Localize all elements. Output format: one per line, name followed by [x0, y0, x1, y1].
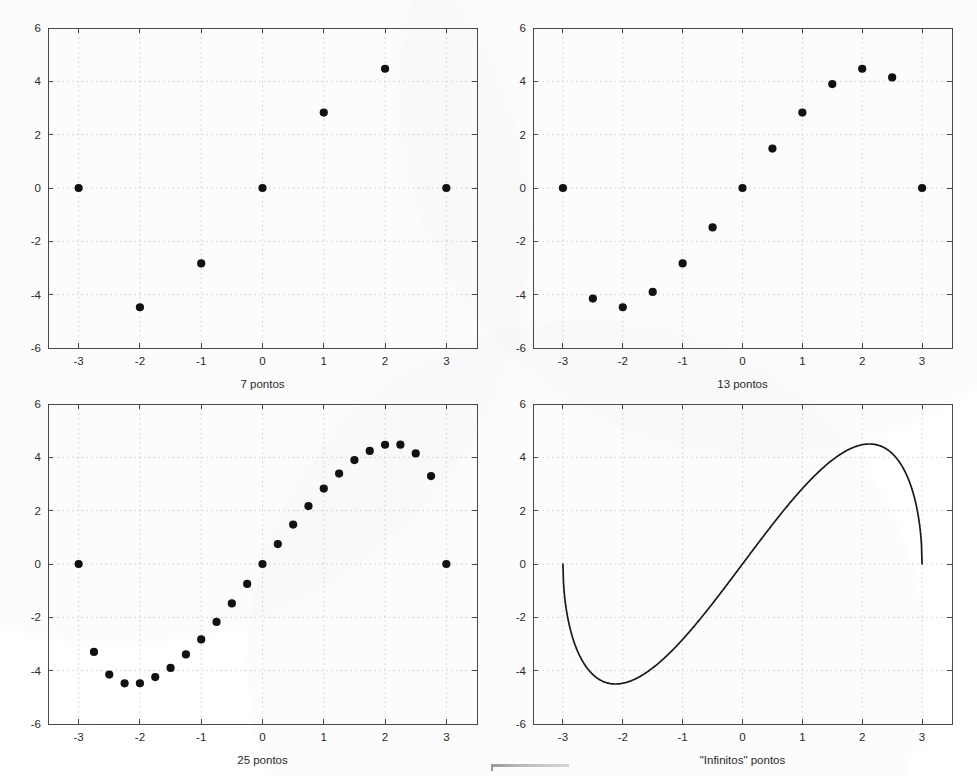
data-point: [258, 560, 266, 568]
y-tick-label: 2: [520, 505, 526, 517]
axis-ticks: -3-2-10123-6-4-20246: [31, 22, 477, 367]
x-tick-label: 3: [443, 355, 449, 367]
data-point: [151, 673, 159, 681]
y-tick-label: -6: [31, 342, 41, 354]
y-tick-label: -6: [31, 718, 41, 730]
data-point: [90, 648, 98, 656]
x-tick-label: 2: [859, 355, 865, 367]
data-point: [708, 223, 716, 231]
x-tick-label: 1: [799, 731, 805, 743]
data-point: [427, 472, 435, 480]
y-tick-label: -2: [31, 611, 41, 623]
axis-ticks: -3-2-10123-6-4-20246: [31, 398, 477, 743]
data-point: [136, 679, 144, 687]
x-tick-label: 2: [382, 731, 388, 743]
data-point: [381, 65, 389, 73]
data-point: [738, 184, 746, 192]
data-point: [212, 618, 220, 626]
data-point: [768, 144, 776, 152]
x-tick-label: -2: [135, 355, 145, 367]
y-tick-label: -2: [516, 611, 526, 623]
data-point: [679, 259, 687, 267]
data-point: [381, 441, 389, 449]
subplot-4: -3-2-10123-6-4-20246"Infinitos" pontos: [485, 376, 966, 776]
x-tick-label: 0: [739, 731, 745, 743]
x-tick-label: -2: [618, 731, 628, 743]
data-point: [589, 294, 597, 302]
data-point: [559, 184, 567, 192]
subplot-1: -3-2-10123-6-4-202467 pontos: [0, 0, 491, 404]
y-tick-label: -4: [31, 665, 42, 677]
y-tick-label: -2: [516, 235, 526, 247]
y-tick-label: 4: [520, 75, 527, 87]
y-tick-label: 6: [35, 398, 41, 410]
x-tick-label: 1: [321, 731, 327, 743]
x-tick-label: -1: [678, 731, 688, 743]
x-tick-label: -2: [135, 731, 145, 743]
x-tick-label: 0: [259, 355, 265, 367]
y-tick-label: 2: [520, 129, 526, 141]
x-tick-label: 1: [321, 355, 327, 367]
figure-subplot-grid: -3-2-10123-6-4-202467 pontos-3-2-10123-6…: [0, 0, 977, 776]
x-tick-label: 1: [799, 355, 805, 367]
y-tick-label: 6: [520, 22, 526, 34]
data-point: [412, 449, 420, 457]
data-point: [649, 288, 657, 296]
x-tick-label: 2: [859, 731, 865, 743]
x-axis-label: 25 pontos: [237, 754, 288, 766]
data-point: [182, 650, 190, 658]
x-tick-label: 2: [382, 355, 388, 367]
data-point: [320, 484, 328, 492]
x-tick-label: 0: [739, 355, 745, 367]
subplot-2: -3-2-10123-6-4-2024613 pontos: [485, 0, 966, 404]
x-tick-label: -3: [558, 731, 568, 743]
y-tick-label: -4: [516, 289, 527, 301]
scan-artifact-line: [491, 764, 569, 767]
data-point: [75, 560, 83, 568]
x-tick-label: 0: [259, 731, 265, 743]
data-point: [858, 65, 866, 73]
scan-artifact-tick: [491, 764, 493, 771]
y-tick-label: 4: [35, 451, 42, 463]
data-point: [918, 184, 926, 192]
x-tick-label: -1: [678, 355, 688, 367]
x-tick-label: -3: [74, 731, 84, 743]
y-tick-label: 2: [35, 129, 41, 141]
data-point: [304, 502, 312, 510]
data-point: [197, 259, 205, 267]
data-point: [442, 184, 450, 192]
data-point: [366, 447, 374, 455]
y-tick-label: -6: [516, 718, 526, 730]
data-point: [335, 469, 343, 477]
data-point: [197, 635, 205, 643]
x-tick-label: -1: [196, 355, 206, 367]
y-tick-label: 6: [35, 22, 41, 34]
x-tick-label: 3: [443, 731, 449, 743]
data-point: [243, 580, 251, 588]
data-point: [350, 456, 358, 464]
data-point: [121, 679, 129, 687]
x-tick-label: -3: [558, 355, 568, 367]
y-tick-label: 0: [35, 558, 41, 570]
data-point: [888, 73, 896, 81]
data-point: [274, 540, 282, 548]
data-point: [442, 560, 450, 568]
data-point: [798, 108, 806, 116]
data-point: [619, 303, 627, 311]
data-point: [228, 599, 236, 607]
data-point: [75, 184, 83, 192]
y-tick-label: 4: [35, 75, 42, 87]
x-tick-label: -1: [196, 731, 206, 743]
y-tick-label: 0: [520, 558, 526, 570]
data-point: [105, 670, 113, 678]
axis-ticks: -3-2-10123-6-4-20246: [516, 22, 952, 367]
data-point: [258, 184, 266, 192]
data-point: [166, 664, 174, 672]
y-tick-label: -6: [516, 342, 526, 354]
data-point: [320, 108, 328, 116]
data-point: [136, 303, 144, 311]
y-tick-label: 2: [35, 505, 41, 517]
y-tick-label: -2: [31, 235, 41, 247]
y-tick-label: 6: [520, 398, 526, 410]
y-tick-label: -4: [31, 289, 42, 301]
